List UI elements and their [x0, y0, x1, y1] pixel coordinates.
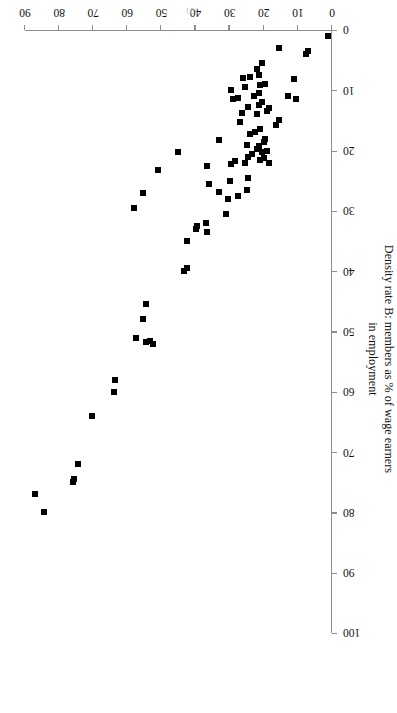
scatter-point [285, 93, 291, 99]
y-tick-label-70: 70 [343, 446, 355, 458]
scatter-point [32, 491, 38, 497]
page-number: 121 [0, 6, 384, 16]
y-tick-label-30: 30 [343, 205, 355, 217]
scatter-point [223, 211, 229, 217]
scatter-point [293, 96, 299, 102]
x-tick-50 [160, 25, 161, 30]
scatter-point [259, 60, 265, 66]
scatter-point [176, 149, 182, 155]
y-axis-title-line-1: Density rate B: members as % of wage ear… [381, 194, 397, 524]
y-tick-label-0: 0 [343, 24, 349, 36]
scatter-point [111, 389, 117, 395]
x-tick-70 [92, 25, 93, 30]
scatter-point [276, 45, 282, 51]
y-axis-title: Density rate B: members as % of wage ear… [365, 194, 397, 524]
y-tick-label-50: 50 [343, 326, 355, 338]
y-tick-label-80: 80 [343, 506, 355, 518]
scatter-point [227, 178, 233, 184]
scatter-point [251, 93, 257, 99]
y-tick-30 [332, 211, 337, 212]
y-tick-40 [332, 271, 337, 272]
scatter-point [193, 226, 199, 232]
scatter-point [133, 335, 139, 341]
scatter-point [256, 102, 262, 108]
x-tick-40 [194, 25, 195, 30]
scatter-point [240, 75, 246, 81]
x-axis-line [25, 30, 332, 31]
scatter-point [303, 51, 309, 57]
scatter-point [247, 131, 253, 137]
scatter-point [140, 316, 146, 322]
scatter-point [256, 90, 262, 96]
scatter-point [273, 122, 279, 128]
scatter-point [216, 137, 222, 143]
scatter-point [143, 301, 149, 307]
y-tick-70 [332, 452, 337, 453]
y-tick-10 [332, 90, 337, 91]
scatter-point [264, 148, 270, 154]
x-tick-30 [228, 25, 229, 30]
scatter-point [216, 189, 222, 195]
y-tick-60 [332, 392, 337, 393]
scatter-point [75, 461, 81, 467]
scatter-point [256, 72, 262, 78]
y-tick-0 [332, 30, 337, 31]
scatter-point [257, 82, 263, 88]
scatter-point [225, 196, 231, 202]
scatter-point [242, 84, 248, 90]
scatter-point [150, 341, 156, 347]
scatter-point [143, 339, 149, 345]
y-tick-label-90: 90 [343, 567, 355, 579]
scatter-point [41, 509, 47, 515]
scatter-point [325, 33, 331, 39]
scatter-point [184, 238, 190, 244]
x-tick-60 [126, 25, 127, 30]
scatter-point [131, 205, 137, 211]
x-tick-10 [297, 25, 298, 30]
y-tick-label-20: 20 [343, 145, 355, 157]
y-tick-label-100: 100 [343, 627, 360, 639]
x-tick-80 [58, 25, 59, 30]
y-tick-label-60: 60 [343, 386, 355, 398]
scatter-point [245, 175, 251, 181]
y-tick-label-40: 40 [343, 265, 355, 277]
scatter-point [242, 160, 248, 166]
scatter-point [235, 193, 241, 199]
scatter-point [244, 187, 250, 193]
scatter-point [205, 163, 211, 169]
x-tick-20 [263, 25, 264, 30]
scatter-point [181, 268, 187, 274]
scatter-point [257, 126, 263, 132]
y-axis-title-line-2: in employment [365, 194, 381, 524]
y-tick-80 [332, 512, 337, 513]
scatter-point [205, 229, 211, 235]
scatter-point [244, 142, 250, 148]
scatter-point [245, 104, 251, 110]
scatter-point [155, 167, 161, 173]
scatter-point [140, 190, 146, 196]
scatter-point [266, 160, 272, 166]
scatter-point [247, 74, 253, 80]
scatter-point [257, 157, 263, 163]
y-tick-90 [332, 573, 337, 574]
scatter-point [262, 81, 268, 87]
scatter-point [239, 110, 245, 116]
scatter-point [112, 377, 118, 383]
x-tick-90 [24, 25, 25, 30]
scatter-point [254, 111, 260, 117]
y-tick-50 [332, 332, 337, 333]
scatter-point [228, 161, 234, 167]
scatter-point [228, 87, 234, 93]
scatter-point [264, 108, 270, 114]
y-tick-label-10: 10 [343, 84, 355, 96]
scatter-point [291, 76, 297, 82]
scatter-point [237, 119, 243, 125]
y-tick-100 [332, 633, 337, 634]
plot-wrapper: 0102030405060708090 01020304050607080901… [25, 30, 332, 633]
plot-area: 0102030405060708090 01020304050607080901… [25, 30, 332, 633]
scatter-point [235, 95, 241, 101]
scatter-point [206, 181, 212, 187]
scatter-point [252, 130, 258, 136]
